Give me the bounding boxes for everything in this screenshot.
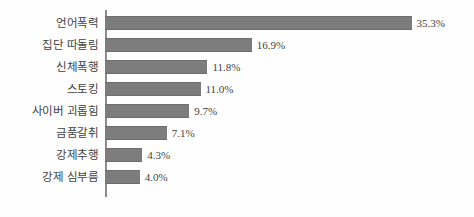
category-label: 사이버 괴롭힘 [0,105,105,118]
bar-track: 35.3% [105,12,474,34]
category-label: 금품갈취 [0,127,105,140]
bar-row: 강제추행4.3% [0,144,474,166]
category-label: 신체폭행 [0,61,105,74]
bar [105,170,140,184]
bar-value-label: 11.0% [201,83,234,95]
bar-row: 집단 따돌림16.9% [0,34,474,56]
category-label: 집단 따돌림 [0,39,105,52]
bar [105,126,167,140]
bar [105,38,252,52]
category-label: 스토킹 [0,83,105,96]
bar-value-label: 7.1% [167,127,195,139]
bar-value-label: 11.8% [207,61,240,73]
bar [105,104,189,118]
category-label: 언어폭력 [0,17,105,30]
category-label: 강제 심부름 [0,171,105,184]
bar-track: 9.7% [105,100,474,122]
bar [105,82,201,96]
horizontal-bar-chart: 언어폭력35.3%집단 따돌림16.9%신체폭행11.8%스토킹11.0%사이버… [0,0,474,217]
bar-track: 4.3% [105,144,474,166]
category-label: 강제추행 [0,149,105,162]
bar-track: 4.0% [105,166,474,188]
bar [105,148,142,162]
bar-track: 7.1% [105,122,474,144]
bar-row: 강제 심부름4.0% [0,166,474,188]
bar-row: 금품갈취7.1% [0,122,474,144]
plot-area: 언어폭력35.3%집단 따돌림16.9%신체폭행11.8%스토킹11.0%사이버… [0,0,474,217]
bar-value-label: 35.3% [412,17,445,29]
bar-track: 11.0% [105,78,474,100]
bar-value-label: 16.9% [252,39,285,51]
bar-row: 사이버 괴롭힘9.7% [0,100,474,122]
bar-row: 언어폭력35.3% [0,12,474,34]
bar [105,16,412,30]
bar [105,60,207,74]
bar-row: 스토킹11.0% [0,78,474,100]
bar-track: 11.8% [105,56,474,78]
bar-series: 언어폭력35.3%집단 따돌림16.9%신체폭행11.8%스토킹11.0%사이버… [0,12,474,188]
bar-value-label: 4.3% [142,149,170,161]
bar-row: 신체폭행11.8% [0,56,474,78]
bar-track: 16.9% [105,34,474,56]
bar-value-label: 4.0% [140,171,168,183]
bar-value-label: 9.7% [189,105,217,117]
